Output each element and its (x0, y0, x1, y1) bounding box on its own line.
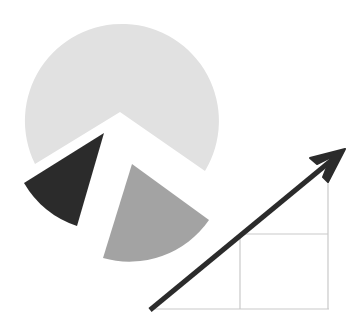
pie-slice-medium (103, 164, 209, 262)
illustration (0, 0, 364, 332)
pie-slice-large (25, 24, 219, 171)
pie-chart (24, 24, 219, 262)
